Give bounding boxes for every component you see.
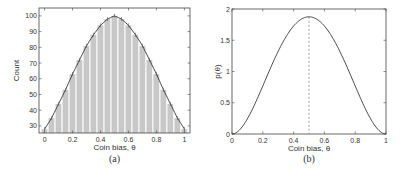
bar [77, 60, 83, 133]
bars [42, 16, 188, 133]
y-tick-label: 30 [29, 122, 37, 129]
x-tick-label: 0 [43, 136, 47, 143]
y-tick-label: 80 [29, 44, 37, 51]
y-tick-label: 60 [29, 75, 37, 82]
bar [146, 60, 152, 133]
subfigure-caption: (b) [303, 153, 315, 165]
bar [105, 19, 111, 133]
y-tick-label: 1 [226, 68, 230, 75]
x-tick-label: 1 [384, 137, 388, 144]
y-tick-label: 0.5 [220, 99, 230, 106]
x-tick-label: 0.2 [258, 137, 268, 144]
y-tick-label: 40 [29, 107, 37, 114]
y-tick-label: 2 [226, 6, 230, 13]
bar [49, 118, 55, 133]
y-tick-label: 50 [29, 91, 37, 98]
bar [132, 35, 138, 133]
y-tick-label: 90 [29, 28, 37, 35]
histogram-chart: 00.20.40.60.8130405060708090100Coin bias… [0, 0, 200, 174]
bar [160, 90, 166, 133]
x-tick-label: 0.8 [152, 136, 162, 143]
bar [91, 35, 97, 133]
subfigure-caption: (a) [109, 153, 120, 165]
bar [118, 19, 124, 133]
x-axis-label: Coin bias, θ [93, 143, 136, 152]
x-tick-label: 0.6 [320, 137, 330, 144]
chart-panel-b: 00.20.40.60.8100.511.52Coin bias, θp(θ)(… [200, 0, 402, 174]
y-tick-label: 70 [29, 60, 37, 67]
x-tick-label: 1 [182, 136, 186, 143]
bar [70, 74, 76, 133]
x-tick-label: 0.2 [68, 136, 78, 143]
y-axis-label: Count [12, 59, 21, 81]
bar [98, 25, 104, 133]
bar [139, 46, 145, 133]
x-tick-label: 0.4 [96, 136, 106, 143]
axes-frame [232, 9, 386, 134]
x-tick-label: 0 [230, 137, 234, 144]
chart-panel-a: 00.20.40.60.8130405060708090100Coin bias… [0, 0, 200, 174]
bar [63, 90, 69, 133]
bar [112, 16, 118, 133]
bar [125, 25, 131, 133]
bar [153, 74, 159, 133]
x-tick-label: 0.8 [350, 137, 360, 144]
x-tick-label: 0.6 [124, 136, 134, 143]
x-axis-label: Coin bias, θ [288, 144, 331, 153]
x-tick-label: 0.4 [289, 137, 299, 144]
bar [84, 46, 90, 133]
density-line-chart: 00.20.40.60.8100.511.52Coin bias, θp(θ)(… [200, 0, 402, 174]
y-axis-label: p(θ) [213, 64, 222, 79]
y-tick-label: 100 [25, 12, 37, 19]
y-tick-label: 0 [226, 131, 230, 138]
y-tick-label: 1.5 [220, 37, 230, 44]
